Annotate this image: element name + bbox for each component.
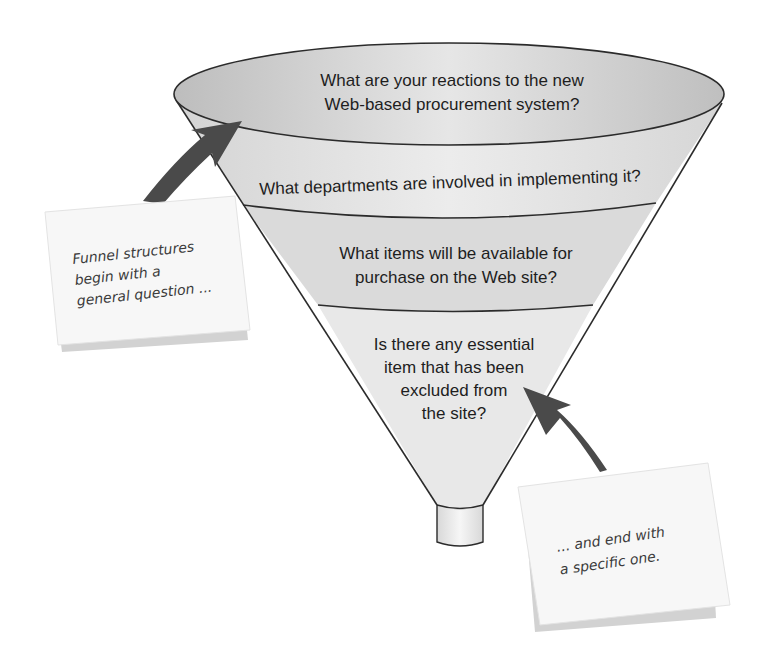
svg-text:What are your reactions to the: What are your reactions to the new [320, 71, 584, 90]
svg-text:the site?: the site? [422, 404, 486, 423]
arrow-to-specific-question-icon [523, 387, 607, 472]
svg-text:Is there any essential: Is there any essential [374, 335, 535, 354]
funnel-spout [437, 505, 483, 546]
funnel-rim [174, 43, 724, 145]
svg-text:purchase on the Web site?: purchase on the Web site? [355, 268, 557, 287]
funnel-diagram: What are your reactions to the new Web-b… [0, 0, 765, 669]
svg-text:What items will be available f: What items will be available for [339, 244, 573, 263]
funnel-body [176, 100, 722, 509]
svg-text:excluded from: excluded from [401, 381, 508, 400]
note-specific: ... and end with a specific one. [518, 463, 730, 632]
svg-text:item that has been: item that has been [384, 358, 524, 377]
note-general: Funnel structures begin with a general q… [45, 196, 250, 352]
svg-text:Web-based procurement system?: Web-based procurement system? [325, 95, 580, 114]
